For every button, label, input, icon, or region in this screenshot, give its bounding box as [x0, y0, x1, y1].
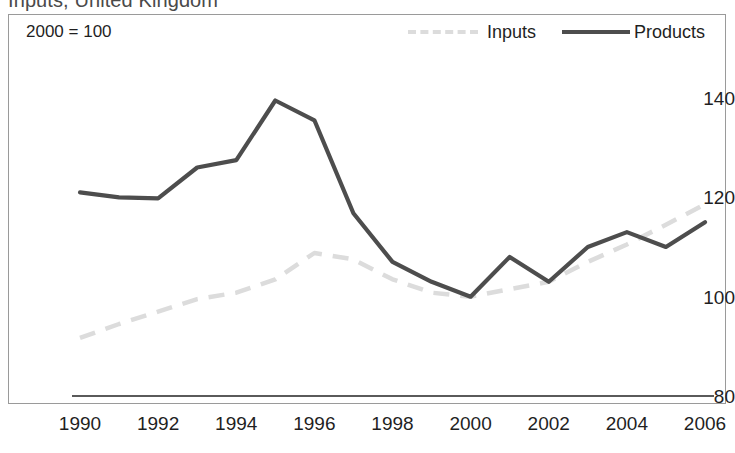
x-axis-tick-1998: 1998: [371, 412, 413, 436]
x-axis-tick-2002: 2002: [528, 412, 570, 436]
x-axis-tick-1996: 1996: [293, 412, 335, 436]
x-axis-tick-1990: 1990: [59, 412, 101, 436]
y-axis-tick-120: 120: [669, 188, 735, 207]
x-axis-labels: 199019921994199619982000200220042006: [0, 412, 735, 442]
x-axis-tick-2000: 2000: [449, 412, 491, 436]
y-axis-tick-100: 100: [669, 287, 735, 306]
y-axis-tick-140: 140: [669, 89, 735, 108]
y-axis-tick-80: 80: [669, 387, 735, 406]
x-axis-tick-2006: 2006: [684, 412, 726, 436]
x-axis-tick-1994: 1994: [215, 412, 257, 436]
y-axis-labels: 80100120140: [0, 0, 735, 453]
chart-root: Inputs, United Kingdom 2000 = 100 Inputs…: [0, 0, 735, 453]
x-axis-tick-1992: 1992: [137, 412, 179, 436]
x-axis-tick-2004: 2004: [606, 412, 648, 436]
